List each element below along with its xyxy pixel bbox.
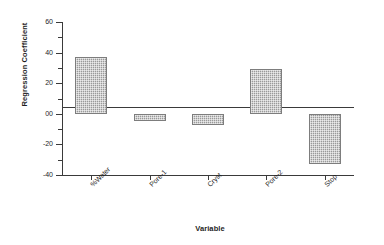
bar-stop: [309, 114, 341, 164]
y-tick-label-3: 00: [27, 110, 53, 117]
bar-pore-1: [134, 114, 166, 122]
y-tick-label-0: 60: [27, 18, 53, 25]
y-tick-4: [56, 144, 62, 145]
bar-pore-2: [250, 69, 282, 113]
y-minor-tick-3: [58, 129, 62, 130]
y-minor-tick-1: [58, 68, 62, 69]
y-tick-label-1: 40: [27, 49, 53, 56]
x-tick-label-3: Pore-2: [264, 168, 285, 189]
x-axis-title: Variable: [60, 224, 360, 233]
y-tick-0: [56, 22, 62, 23]
y-tick-3: [56, 114, 62, 115]
y-minor-tick-2: [58, 99, 62, 100]
y-tick-label-5: -40: [27, 171, 53, 178]
x-tick-label-0: %Water: [89, 166, 112, 189]
y-tick-5: [56, 175, 62, 176]
y-tick-1: [56, 53, 62, 54]
regression-coefficient-bar-chart: Regression Coefficient 60402000-20-40 %W…: [0, 0, 384, 245]
y-tick-2: [56, 83, 62, 84]
x-tick-label-1: Pore-1: [148, 168, 169, 189]
y-tick-label-2: 20: [27, 79, 53, 86]
y-minor-tick-4: [58, 160, 62, 161]
y-axis-line: [62, 22, 63, 176]
bar-water: [75, 57, 107, 114]
bar-cryst: [192, 114, 224, 125]
y-tick-label-4: -20: [27, 140, 53, 147]
y-minor-tick-0: [58, 37, 62, 38]
